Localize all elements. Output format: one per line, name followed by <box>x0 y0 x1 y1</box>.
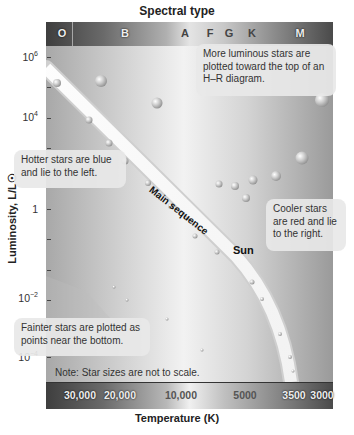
sun-label: Sun <box>233 244 254 256</box>
star-main-sequence <box>288 355 292 359</box>
star-main-sequence <box>278 332 282 336</box>
x-tick-10000: 10,000 <box>165 389 197 401</box>
star-white-dwarf <box>201 349 204 352</box>
star-main-sequence <box>250 280 255 285</box>
spectral-b: B <box>121 27 129 39</box>
star-main-sequence <box>145 180 151 186</box>
y-tick-1e-2: 10−2 <box>18 291 38 304</box>
y-tick-mark <box>47 209 51 210</box>
y-tick-1: 1 <box>32 203 38 215</box>
x-tick-3000: 3000 <box>310 389 333 401</box>
star-giant <box>231 182 239 190</box>
x-axis-label: Temperature (K) <box>0 412 354 424</box>
spectral-g: G <box>225 27 234 39</box>
y-tick-mark <box>47 300 51 301</box>
star-main-sequence <box>193 234 198 239</box>
star-supergiant <box>95 75 107 87</box>
star-giant <box>249 176 258 185</box>
temperature-bar: 30,000 20,000 10,000 5000 3500 3000 <box>46 382 333 409</box>
callout-hotter: Hotter stars are blue and lie to the lef… <box>14 150 126 188</box>
callout-cooler: Cooler stars are red and lie to the righ… <box>266 199 346 251</box>
star-giant <box>242 194 250 202</box>
x-tick-20000: 20,000 <box>104 389 136 401</box>
spectral-f: F <box>207 27 214 39</box>
x-tick-3500: 3500 <box>282 389 305 401</box>
star-white-dwarf <box>126 299 129 302</box>
star-main-sequence <box>53 79 61 87</box>
y-tick-mark <box>47 148 51 149</box>
x-tick-30000: 30,000 <box>64 389 96 401</box>
star-sun <box>215 250 220 255</box>
spectral-a: A <box>181 27 189 39</box>
callout-luminous: More luminous stars are plotted toward t… <box>196 44 336 96</box>
x-tick-5000: 5000 <box>233 389 256 401</box>
scale-note: Note: Star sizes are not to scale. <box>55 367 200 378</box>
star-main-sequence <box>86 117 93 124</box>
star-main-sequence <box>106 140 113 147</box>
y-tick-1e6: 106 <box>22 50 38 63</box>
y-tick-mark <box>47 270 51 271</box>
spectral-o: O <box>58 27 67 39</box>
spectral-divider <box>72 22 73 46</box>
star-giant <box>271 171 281 181</box>
y-tick-mark <box>47 357 51 358</box>
spectral-k: K <box>248 27 256 39</box>
star-giant <box>152 98 163 109</box>
star-white-dwarf <box>166 318 169 321</box>
y-tick-mark <box>47 118 51 119</box>
spectral-m: M <box>295 27 304 39</box>
star-giant <box>216 181 223 188</box>
y-tick-mark <box>47 57 51 58</box>
star-main-sequence <box>260 297 264 301</box>
y-tick-mark <box>47 239 51 240</box>
y-tick-mark <box>47 87 51 88</box>
star-giant <box>296 152 309 165</box>
star-white-dwarf <box>113 286 116 289</box>
callout-fainter: Fainter stars are plotted as points near… <box>14 318 150 356</box>
y-tick-1e4: 104 <box>22 110 38 123</box>
star-main-sequence <box>292 370 295 373</box>
chart-title: Spectral type <box>0 4 354 18</box>
